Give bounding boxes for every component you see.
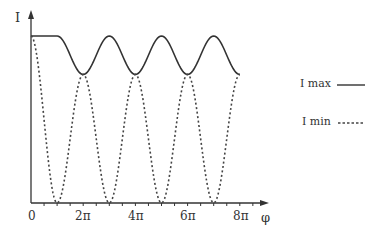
x-tick-2pi: 2π <box>75 209 91 223</box>
legend-imax-label: I max <box>300 77 331 90</box>
y-axis-label: I <box>15 10 20 25</box>
series-imin-line <box>31 36 240 203</box>
series-imax-line <box>31 36 240 74</box>
x-tick-0: 0 <box>28 209 36 223</box>
x-axis-arrow-icon <box>260 200 269 206</box>
y-axis-arrow-icon <box>28 10 34 19</box>
x-tick-6pi: 6π <box>180 209 196 223</box>
x-axis-label: φ <box>261 210 270 225</box>
legend-imin-label: I min <box>302 115 331 128</box>
x-tick-8pi: 8π <box>233 209 249 223</box>
x-tick-4pi: 4π <box>128 209 144 223</box>
